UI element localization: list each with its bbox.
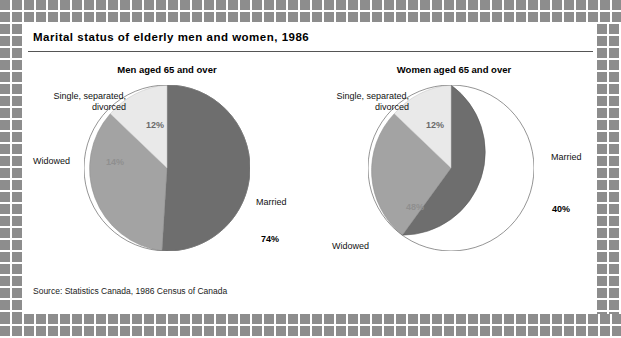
chart-title-women: Women aged 65 and over [311,64,597,75]
label-single-women: Single, separated, divorced [309,91,409,113]
pct-married-women: 40% [552,204,570,214]
border-pattern-top [0,0,621,24]
slice-pct-single-women: 12% [426,120,444,130]
label-single-line2-men: divorced [92,102,126,112]
label-single-line1-men: Single, separated, [53,91,126,101]
slice-pct-widowed-men: 14% [106,157,124,167]
figure-content: Marital status of elderly men and women,… [24,24,597,314]
slice-pct-single-men: 12% [146,120,164,130]
label-single-men: Single, separated, divorced [26,91,126,113]
slice-married-men [162,85,250,251]
chart-title-men: Men aged 65 and over [24,64,310,75]
border-pattern-right [597,24,621,314]
border-pattern-left [0,24,24,314]
figure-page: Marital status of elderly men and women,… [0,0,621,338]
figure-title: Marital status of elderly men and women,… [33,31,309,43]
pie-chart-women: Women aged 65 and over 12% 48% Single, s… [311,64,597,279]
label-widowed-women: Widowed [332,241,369,252]
pie-chart-men: Men aged 65 and over 12% 14% Single, sep… [24,64,310,279]
border-pattern-bottom [0,314,621,338]
source-note: Source: Statistics Canada, 1986 Census o… [33,286,227,296]
label-single-line1-women: Single, separated, [336,91,409,101]
slice-pct-widowed-women: 48% [406,202,424,212]
title-divider [28,51,593,52]
label-married-women: Married [551,152,582,163]
label-widowed-men: Widowed [33,156,70,167]
label-single-line2-women: divorced [375,102,409,112]
pct-married-men: 74% [261,234,279,244]
label-married-men: Married [256,197,287,208]
